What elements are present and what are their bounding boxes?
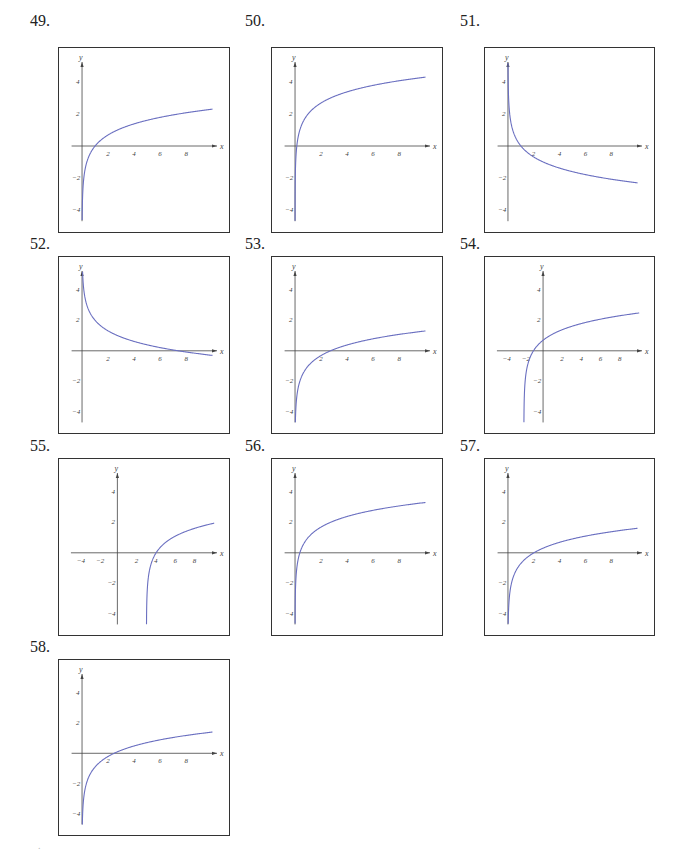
- y-axis-label: y: [113, 464, 118, 473]
- x-tick-label: 8: [184, 757, 188, 765]
- y-tick-label: 2: [502, 518, 506, 526]
- y-tick-label: −4: [285, 610, 294, 618]
- graph-frame: xy246842−2−4: [271, 458, 443, 636]
- y-tick-label: −4: [498, 206, 507, 214]
- exercise-number: 57.: [460, 437, 480, 455]
- graph-plot: xy−4−2246842−2−4: [485, 257, 656, 435]
- y-tick-label: −4: [72, 810, 81, 818]
- y-tick-label: −2: [72, 377, 81, 385]
- y-tick-label: −4: [498, 610, 507, 618]
- y-tick-label: 4: [76, 689, 80, 697]
- exercise-number: 58.: [30, 638, 50, 656]
- graph-plot: xy246842−2−4: [485, 459, 656, 637]
- y-axis-arrow-icon: [293, 271, 296, 276]
- y-tick-label: 2: [537, 316, 541, 324]
- exercise-number: 51.: [460, 12, 480, 30]
- x-tick-label: −4: [503, 355, 512, 363]
- function-curve: [147, 523, 215, 624]
- x-tick-label: 8: [397, 557, 401, 565]
- y-tick-label: −4: [285, 408, 294, 416]
- y-axis-label: y: [539, 262, 544, 271]
- y-tick-label: 4: [502, 488, 506, 496]
- x-tick-label: 2: [319, 557, 323, 565]
- graph-frame: xy−4−2246842−2−4: [58, 458, 230, 636]
- x-axis-label: x: [219, 347, 224, 356]
- x-tick-label: 8: [193, 557, 197, 565]
- exercise-number: 55.: [30, 437, 50, 455]
- x-tick-label: 6: [371, 150, 375, 158]
- y-axis-arrow-icon: [80, 62, 83, 67]
- y-tick-label: −4: [533, 408, 542, 416]
- x-tick-label: 6: [158, 757, 162, 765]
- y-tick-label: 4: [289, 78, 293, 86]
- y-tick-label: 4: [289, 286, 293, 294]
- x-tick-label: 2: [560, 355, 564, 363]
- x-axis-arrow-icon: [212, 349, 217, 352]
- page-mark: .: [38, 840, 41, 851]
- y-tick-label: −4: [72, 206, 81, 214]
- function-curve: [82, 732, 212, 824]
- x-tick-label: 4: [132, 757, 136, 765]
- x-axis-arrow-icon: [212, 551, 217, 554]
- graph-plot: xy246842−2−4: [485, 48, 656, 234]
- x-tick-label: −2: [96, 557, 105, 565]
- graph-frame: xy246842−2−4: [271, 256, 443, 434]
- graph-frame: xy246842−2−4: [58, 659, 230, 836]
- x-tick-label: 8: [610, 150, 614, 158]
- y-tick-label: 4: [289, 488, 293, 496]
- function-curve: [82, 109, 212, 220]
- y-axis-label: y: [78, 53, 83, 62]
- function-curve: [524, 313, 639, 422]
- y-axis-label: y: [78, 262, 83, 271]
- x-axis-label: x: [432, 142, 437, 151]
- x-tick-label: 8: [397, 150, 401, 158]
- x-tick-label: 2: [319, 150, 323, 158]
- x-tick-label: 4: [345, 355, 349, 363]
- x-axis-arrow-icon: [212, 752, 217, 755]
- graph-plot: xy246842−2−4: [272, 257, 444, 435]
- y-tick-label: 2: [76, 110, 80, 118]
- x-axis-label: x: [644, 142, 649, 151]
- y-axis-arrow-icon: [80, 674, 83, 679]
- y-axis-label: y: [291, 464, 296, 473]
- graph-plot: xy246842−2−4: [272, 459, 444, 637]
- y-tick-label: 4: [76, 78, 80, 86]
- y-tick-label: 2: [111, 518, 115, 526]
- x-tick-label: 8: [184, 150, 188, 158]
- x-tick-label: 4: [345, 557, 349, 565]
- graph-plot: xy246842−2−4: [59, 48, 231, 234]
- graph-frame: xy246842−2−4: [271, 47, 443, 233]
- y-tick-label: −2: [285, 377, 294, 385]
- exercise-number: 56.: [245, 437, 265, 455]
- graph-plot: xy246842−2−4: [272, 48, 444, 234]
- x-axis-arrow-icon: [637, 144, 642, 147]
- y-tick-label: 4: [111, 488, 115, 496]
- y-tick-label: −2: [285, 579, 294, 587]
- x-tick-label: 4: [154, 557, 158, 565]
- graph-frame: xy246842−2−4: [484, 47, 655, 233]
- x-tick-label: 2: [106, 150, 110, 158]
- x-tick-label: 2: [135, 557, 139, 565]
- x-tick-label: 6: [158, 150, 162, 158]
- exercise-number: 54.: [460, 235, 480, 253]
- y-tick-label: −4: [107, 610, 116, 618]
- x-tick-label: 2: [106, 355, 110, 363]
- y-tick-label: 2: [289, 316, 293, 324]
- x-tick-label: 4: [558, 150, 562, 158]
- y-axis-arrow-icon: [506, 473, 509, 478]
- x-tick-label: 2: [106, 757, 110, 765]
- x-tick-label: 8: [618, 355, 622, 363]
- exercise-number: 50.: [245, 12, 265, 30]
- exercise-number: 52.: [30, 235, 50, 253]
- y-tick-label: 4: [76, 286, 80, 294]
- y-tick-label: −2: [498, 579, 507, 587]
- function-curve: [508, 528, 637, 624]
- y-tick-label: 2: [289, 110, 293, 118]
- exercise-number: 49.: [30, 12, 50, 30]
- graph-plot: xy246842−2−4: [59, 257, 231, 435]
- x-axis-arrow-icon: [637, 551, 642, 554]
- x-axis-label: x: [644, 347, 649, 356]
- function-curve: [508, 63, 638, 183]
- x-tick-label: 4: [558, 557, 562, 565]
- y-tick-label: −2: [498, 174, 507, 182]
